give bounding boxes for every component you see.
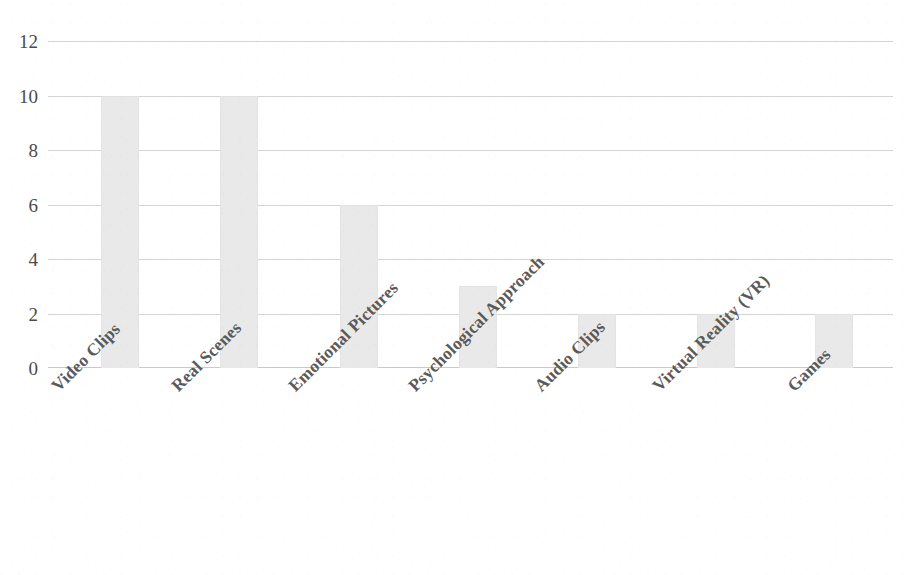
gridline-6 (48, 205, 893, 206)
x-axis: Video ClipsReal ScenesEmotional Pictures… (48, 368, 893, 568)
gridline-10 (48, 96, 893, 97)
y-axis-tick-4: 4 (4, 250, 38, 269)
y-axis-tick-6: 6 (4, 196, 38, 215)
y-axis-tick-0: 0 (4, 359, 38, 378)
gridline-8 (48, 150, 893, 151)
gridline-4 (48, 259, 893, 260)
y-axis-tick-10: 10 (4, 87, 38, 106)
gridline-12 (48, 41, 893, 42)
y-axis-tick-2: 2 (4, 305, 38, 324)
y-axis-tick-12: 12 (4, 32, 38, 51)
bar-chart-figure: . . . . . . . . . . . . . . . . . . . . … (0, 0, 909, 575)
y-axis: 12 10 8 6 4 2 0 (0, 41, 38, 368)
y-axis-tick-8: 8 (4, 141, 38, 160)
